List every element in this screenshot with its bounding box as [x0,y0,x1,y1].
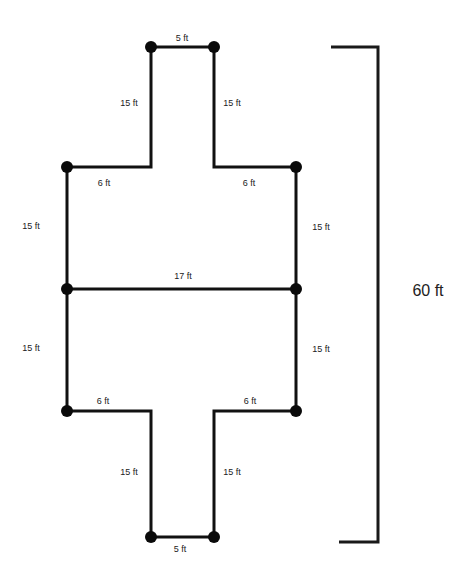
label-upper-right-shoulder: 6 ft [243,179,256,188]
vertex-bottom-right [208,531,220,543]
floor-plan-diagram [0,0,468,577]
label-top-width: 5 ft [176,34,189,43]
vertex-top-right [208,41,220,53]
label-bottom-width: 5 ft [174,545,187,554]
label-middle-width: 17 ft [174,272,192,281]
vertex-middle-right [290,283,302,295]
vertex-upper-shoulder-left [61,161,73,173]
label-lower-right-side: 15 ft [312,345,330,354]
vertex-middle-left [61,283,73,295]
label-upper-left-side: 15 ft [22,222,40,231]
label-bottom-right-arm: 15 ft [223,468,241,477]
label-top-right-arm: 15 ft [223,99,241,108]
label-bottom-left-arm: 15 ft [120,468,138,477]
vertex-lower-shoulder-right [290,405,302,417]
label-top-left-arm: 15 ft [120,99,138,108]
label-lower-left-side: 15 ft [22,344,40,353]
shape-outline [67,47,296,537]
label-lower-left-shoulder: 6 ft [97,397,110,406]
label-upper-right-side: 15 ft [312,223,330,232]
label-lower-right-shoulder: 6 ft [244,397,257,406]
vertex-top-left [145,41,157,53]
vertex-upper-shoulder-right [290,161,302,173]
label-total-height: 60 ft [412,283,443,299]
height-bracket [331,47,378,542]
label-upper-left-shoulder: 6 ft [98,179,111,188]
vertex-lower-shoulder-left [61,405,73,417]
vertex-bottom-left [145,531,157,543]
